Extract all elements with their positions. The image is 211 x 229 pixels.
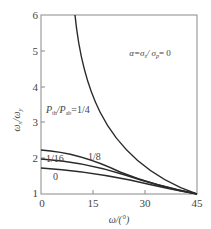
x-ticks: [93, 190, 145, 194]
xtick-15: 15: [88, 197, 100, 209]
ytick-1: 1: [33, 187, 39, 199]
chart: 6 5 4 3 2 1 0 15 30 45 ω/(°) ωx/ωy α=σs/…: [0, 0, 211, 229]
pth-pab-label: Pth/Pab=1/4: [45, 104, 90, 116]
ytick-3: 3: [33, 116, 39, 128]
xtick-45: 45: [192, 197, 204, 209]
xtick-30: 30: [140, 197, 152, 209]
ytick-2: 2: [33, 152, 39, 164]
xtick-0: 0: [39, 197, 45, 209]
curve-1-16: [41, 159, 197, 194]
ytick-6: 6: [33, 9, 39, 21]
alpha-annotation: α=σs/ σp= 0: [129, 48, 171, 59]
curve-1-8: [41, 150, 197, 194]
y-ticks: [41, 51, 45, 158]
ytick-5: 5: [33, 45, 39, 57]
y-axis-label: ωx/ωy: [11, 108, 24, 132]
label-0: 0: [53, 171, 58, 182]
label-1-16: 1/16: [46, 153, 64, 164]
curve-pth-pab-1-4: [75, 15, 197, 194]
ytick-4: 4: [33, 81, 39, 93]
x-axis-label: ω/(°): [109, 214, 130, 226]
label-1-8: 1/8: [88, 151, 101, 162]
